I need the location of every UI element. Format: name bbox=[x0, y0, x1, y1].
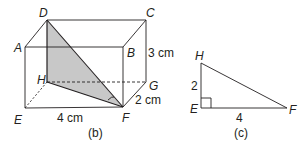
right-angle-marker bbox=[201, 98, 211, 108]
label-length: 4 cm bbox=[57, 111, 83, 125]
label-height: 3 cm bbox=[148, 46, 174, 60]
triangle-figure bbox=[201, 63, 287, 108]
label-depth: 2 cm bbox=[135, 93, 161, 107]
label-c-h: H bbox=[195, 49, 204, 63]
edge-ef bbox=[25, 107, 123, 108]
label-a: A bbox=[13, 41, 22, 55]
cuboid-figure bbox=[25, 20, 146, 108]
label-side-ef: 4 bbox=[236, 111, 243, 125]
label-f: F bbox=[122, 111, 130, 125]
label-e: E bbox=[14, 113, 23, 127]
label-b: B bbox=[127, 46, 135, 60]
label-c: C bbox=[146, 6, 155, 20]
edge-da bbox=[25, 20, 47, 47]
label-c-e: E bbox=[190, 102, 199, 116]
label-c-f: F bbox=[289, 103, 297, 117]
label-side-he: 2 bbox=[191, 79, 198, 93]
caption-b: (b) bbox=[88, 126, 103, 140]
label-h: H bbox=[37, 73, 46, 87]
triangle-hef bbox=[201, 63, 287, 108]
label-g: G bbox=[149, 79, 158, 93]
diagram-canvas: D C A B 3 cm H G 2 cm E 4 cm F (b) H 2 E… bbox=[0, 0, 308, 148]
label-d: D bbox=[39, 6, 48, 20]
edge-cb bbox=[123, 20, 146, 47]
triangle-labels: H 2 E 4 F (c) bbox=[190, 49, 297, 140]
caption-c: (c) bbox=[234, 126, 248, 140]
